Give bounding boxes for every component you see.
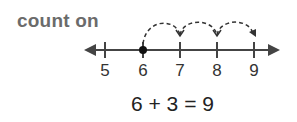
left-arrow-icon [84,44,96,56]
hop-arc-3 [217,22,253,35]
hop-arrowhead-icon [249,29,256,37]
tick-label: 5 [95,61,115,81]
tick-label: 9 [244,61,264,81]
tick-label: 8 [207,61,227,81]
start-point-dot [139,46,147,54]
hop-arc-2 [180,22,217,35]
right-arrow-icon [268,44,280,56]
hop-arc-1 [143,23,180,44]
equation: 6 + 3 = 9 [131,92,214,116]
tick-label: 6 [133,61,153,81]
tick-label: 7 [170,61,190,81]
